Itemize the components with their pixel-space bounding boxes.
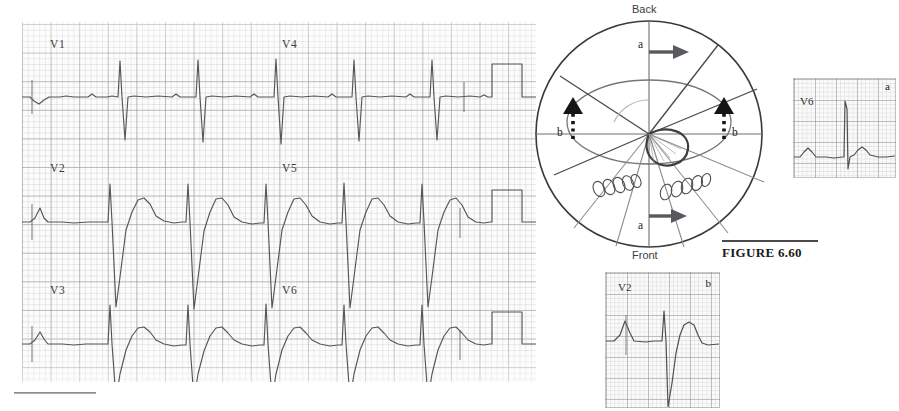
inset-v6-mark: a xyxy=(885,80,890,92)
ecg-panel: V1 V4 V2 V5 V3 V6 xyxy=(22,22,536,382)
vector-diagram: Back Front a b b a xyxy=(532,4,800,266)
inset-v6-lead-label: V6 xyxy=(800,95,813,107)
bead-chain-left xyxy=(591,173,643,199)
label-a-top: a xyxy=(638,38,643,50)
label-front: Front xyxy=(632,249,658,261)
lead-label-v6: V6 xyxy=(282,284,297,296)
label-b-left: b xyxy=(557,126,563,138)
sector-dividers-light xyxy=(574,134,764,247)
inset-strip-v6: V6 a xyxy=(793,78,896,178)
loop-hairlines xyxy=(649,134,681,163)
arrow-a-bottom xyxy=(649,209,687,223)
caption-rule xyxy=(722,240,818,242)
inset-strip-v2: V2 b xyxy=(605,272,720,408)
page-bottom-rule xyxy=(14,392,96,394)
label-back: Back xyxy=(632,3,656,15)
inset-v2-trace xyxy=(606,273,719,407)
ecg-traces xyxy=(22,22,536,382)
figure-page: V1 V4 V2 V5 V3 V6 xyxy=(0,0,899,411)
inset-v6-trace xyxy=(794,79,895,177)
arrow-b-left xyxy=(563,97,583,139)
lead-label-v3: V3 xyxy=(50,284,65,296)
vector-diagram-svg xyxy=(532,4,800,266)
label-b-right: b xyxy=(732,126,738,138)
lead-label-v2: V2 xyxy=(50,162,65,174)
inset-v2-lead-label: V2 xyxy=(618,281,631,293)
label-a-bottom: a xyxy=(638,219,643,231)
lead-label-v4: V4 xyxy=(282,38,297,50)
center-arc xyxy=(614,100,650,122)
figure-caption: FIGURE 6.60 xyxy=(722,240,818,261)
lead-label-v5: V5 xyxy=(282,162,297,174)
caption-text: FIGURE 6.60 xyxy=(722,245,818,261)
lead-label-v1: V1 xyxy=(50,38,65,50)
bead-chain-right xyxy=(658,172,712,201)
inset-v2-mark: b xyxy=(706,277,712,289)
arrow-a-top xyxy=(649,45,689,59)
